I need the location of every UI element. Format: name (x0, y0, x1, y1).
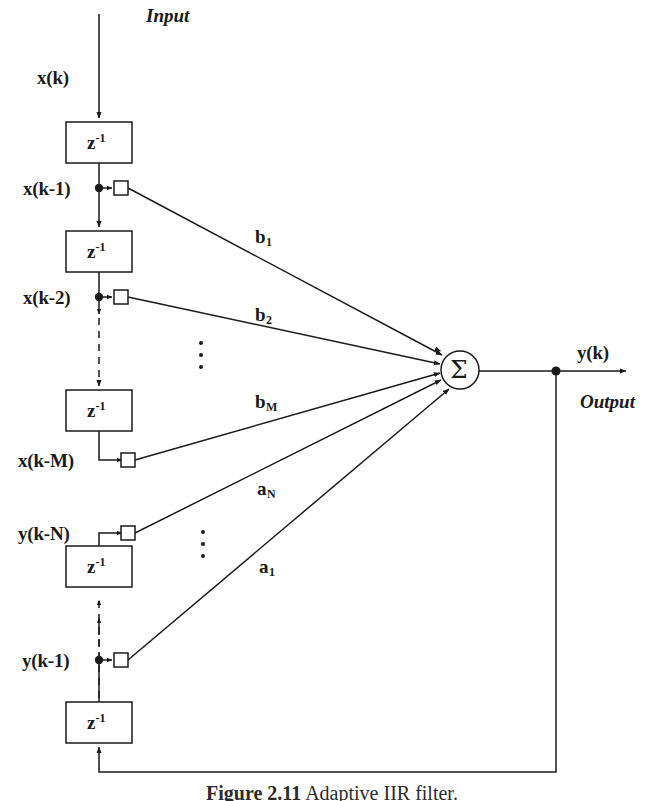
tap-label-y-k-1: y(k-1) (22, 651, 69, 670)
delay-exp-y1: -1 (95, 711, 105, 725)
coef-base-bm: b (255, 391, 266, 412)
adaptive-iir-filter-figure: Input Output x(k) y(k) x(k-1) x(k-2) x(k… (0, 0, 664, 801)
coefficient-label-b2: b2 (255, 305, 272, 324)
weight-square-b2 (114, 290, 128, 304)
ellipsis-dot (199, 341, 203, 345)
delay-exp-x2: -1 (95, 240, 105, 254)
coef-sub-b1: 1 (266, 235, 272, 249)
coef-sub-bm: M (266, 400, 277, 414)
tap-dot-output (551, 366, 560, 375)
ellipsis-dot (199, 353, 203, 357)
coefficient-label-b1: b1 (255, 227, 272, 246)
weight-square-an (121, 526, 135, 540)
branch-b2 (128, 297, 440, 364)
output-label: Output (580, 392, 635, 411)
delay-exp-x1: -1 (95, 131, 105, 145)
delay-box-label-yn: z-1 (87, 557, 105, 576)
delay-exp-xm: -1 (95, 399, 105, 413)
coef-sub-an: N (267, 487, 276, 501)
link-yn-to-tapn (99, 533, 122, 546)
figure-caption: Figure 2.11 Adaptive IIR filter. (0, 782, 664, 801)
tap-label-x-k-1: x(k-1) (23, 179, 70, 198)
tap-label-y-k-n: y(k-N) (18, 524, 70, 543)
signal-label-xk: x(k) (37, 68, 69, 87)
ellipsis-dot (201, 554, 205, 558)
coef-base-b2: b (255, 304, 266, 325)
coef-base-an: a (257, 478, 267, 499)
link-xm-to-tapm (99, 431, 122, 460)
weight-square-a1 (114, 653, 128, 667)
ellipsis-dot (201, 530, 205, 534)
branch-an (135, 380, 441, 533)
input-label: Input (146, 6, 189, 25)
delay-box-label-x1: z-1 (87, 133, 105, 152)
figure-caption-label: Figure 2.11 (206, 782, 301, 801)
delay-box-label-xm: z-1 (87, 401, 105, 420)
figure-caption-text: Adaptive IIR filter. (305, 782, 458, 801)
coef-sub-a1: 1 (269, 565, 275, 579)
coefficient-ellipsis-upper (198, 341, 203, 369)
coefficient-label-bm: bM (255, 392, 277, 411)
ellipsis-dot (199, 365, 203, 369)
delay-exp-yn: -1 (95, 555, 105, 569)
branch-a1 (128, 389, 449, 660)
branch-extra-upper (150, 250, 441, 351)
weight-square-bm (121, 453, 135, 467)
tap-label-x-k-m: x(k-M) (18, 451, 74, 470)
delay-box-label-y1: z-1 (87, 713, 105, 732)
delay-box-label-x2: z-1 (87, 242, 105, 261)
branch-bm (135, 373, 440, 460)
global-feedback-path (99, 371, 556, 772)
weight-square-b1 (114, 181, 128, 195)
coefficient-label-an: aN (257, 479, 275, 498)
coef-base-a1: a (259, 556, 269, 577)
coef-sub-b2: 2 (266, 313, 272, 327)
summing-node-label: Σ (450, 357, 468, 382)
coef-base-b1: b (255, 226, 266, 247)
coefficient-label-a1: a1 (259, 557, 275, 576)
signal-label-yk: y(k) (577, 343, 609, 362)
ellipsis-dot (201, 542, 205, 546)
tap-label-x-k-2: x(k-2) (23, 288, 70, 307)
coefficient-ellipsis-lower (200, 530, 205, 558)
